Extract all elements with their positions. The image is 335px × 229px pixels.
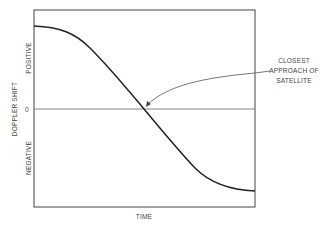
annotation-leader [255, 71, 270, 73]
y-positive-label: POSITIVE [25, 42, 32, 74]
x-axis-label: TIME [136, 213, 153, 220]
y-negative-label: NEGATIVE [25, 141, 32, 175]
annotation-line-2: APPROACH OF [269, 67, 319, 74]
annotation-line-1: CLOSEST [278, 57, 310, 64]
y-zero-label: 0 [25, 106, 29, 113]
doppler-shift-chart: DOPPLER SHIFT POSITIVE NEGATIVE 0 TIME C… [0, 0, 335, 229]
annotation-line-3: SATELLITE [276, 77, 312, 84]
y-axis-label: DOPPLER SHIFT [11, 82, 18, 136]
doppler-curve [34, 26, 255, 191]
annotation-arrow [148, 73, 255, 104]
